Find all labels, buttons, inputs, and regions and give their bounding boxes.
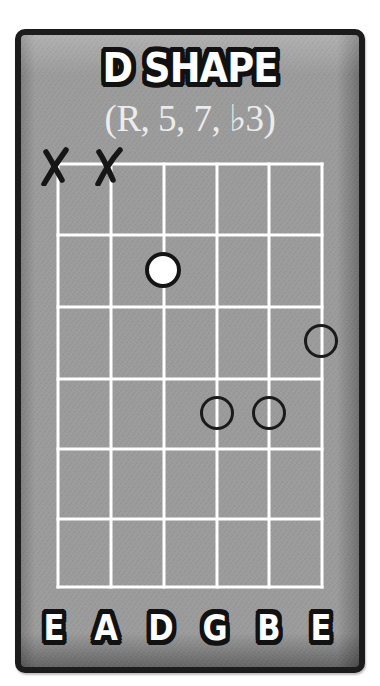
string-label-g: G	[195, 604, 234, 652]
note-marker-b-string-fret-4	[252, 396, 286, 430]
string-label-e-low: E	[34, 604, 73, 652]
root-note-marker-d-string-fret-2	[145, 252, 181, 288]
string-label-d: D	[141, 604, 180, 652]
string-label-b: B	[249, 604, 288, 652]
string-label-e-high: E	[301, 604, 340, 652]
muted-x-icon-string-e-low	[38, 146, 72, 186]
string-label-a: A	[86, 604, 125, 652]
note-marker-e-string-fret-3	[304, 324, 338, 358]
muted-x-icon-string-a	[91, 146, 125, 186]
note-marker-g-string-fret-4	[200, 396, 234, 430]
